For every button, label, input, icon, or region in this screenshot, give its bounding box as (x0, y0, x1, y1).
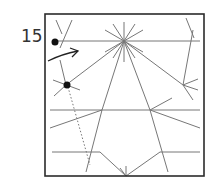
crease-line (183, 85, 193, 100)
crease-line (66, 41, 124, 85)
fold-arrow-icon (48, 48, 78, 61)
crease-line (120, 168, 126, 176)
crease-line (186, 18, 194, 38)
origami-crease-diagram (0, 0, 218, 186)
reference-dot (64, 82, 71, 89)
crease-lines (50, 18, 200, 176)
crease-line (86, 110, 102, 172)
crease-line (183, 30, 193, 85)
crease-line (50, 110, 102, 128)
hidden-fold-line (68, 87, 90, 165)
crease-line (150, 110, 200, 128)
crease-line (126, 152, 160, 176)
crease-line (100, 152, 126, 176)
crease-line (56, 20, 62, 34)
crease-line (183, 79, 198, 85)
crease-line (150, 98, 172, 110)
crease-line (124, 41, 150, 110)
crease-line (124, 41, 183, 85)
reference-dot (52, 39, 59, 46)
crease-line (150, 110, 168, 172)
crease-line (60, 60, 66, 85)
